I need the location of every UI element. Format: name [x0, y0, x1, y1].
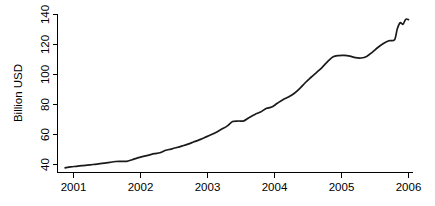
x-tick-label-2002: 2002	[128, 181, 154, 193]
x-tick-label-2006: 2006	[396, 181, 422, 193]
line-chart: Billion USD 140 120 100 80 60 40	[0, 0, 435, 206]
y-axis: 140 120 100 80 60 40	[39, 5, 57, 173]
x-tick-label-2001: 2001	[61, 181, 87, 193]
y-tick-label-60: 60	[39, 128, 51, 141]
x-axis: 2001 2002 2003 2004 2005 2006	[58, 173, 422, 194]
x-tick-label-2003: 2003	[195, 181, 221, 193]
y-axis-title: Billion USD	[12, 64, 24, 122]
chart-figure: Billion USD 140 120 100 80 60 40	[0, 0, 435, 206]
data-series-line	[65, 19, 408, 168]
y-tick-label-120: 120	[39, 35, 51, 54]
y-tick-label-40: 40	[39, 158, 51, 171]
x-tick-label-2005: 2005	[329, 181, 355, 193]
y-tick-label-100: 100	[39, 65, 51, 84]
y-tick-label-140: 140	[39, 5, 51, 24]
y-tick-label-80: 80	[39, 98, 51, 111]
x-tick-label-2004: 2004	[262, 181, 288, 193]
